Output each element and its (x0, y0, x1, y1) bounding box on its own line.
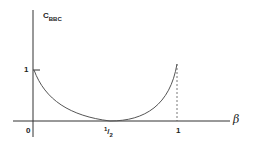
curve-c-bbc (34, 64, 177, 121)
x-tick-label-half: 1/2 (104, 126, 113, 138)
x-tick-label-0: 0 (26, 127, 30, 135)
x-axis-label-beta: β (233, 114, 239, 125)
y-tick-label-1: 1 (24, 66, 28, 74)
y-axis-label: CBBC (43, 12, 62, 22)
chart-canvas (0, 0, 254, 143)
x-tick-label-1: 1 (176, 127, 180, 135)
